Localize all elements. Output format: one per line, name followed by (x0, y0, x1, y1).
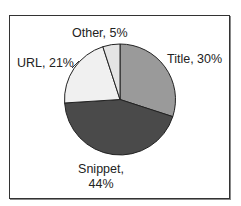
label-snippet: Snippet, (78, 162, 124, 176)
label-snippet-pct: 44% (88, 177, 113, 191)
label-url: URL, 21% (17, 56, 74, 70)
pie-slices (65, 44, 176, 155)
label-title: Title, 30% (167, 52, 222, 66)
label-other: Other, 5% (72, 26, 128, 40)
pie-chart: Other, 5% Title, 30% URL, 21% Snippet, 4… (0, 0, 241, 206)
